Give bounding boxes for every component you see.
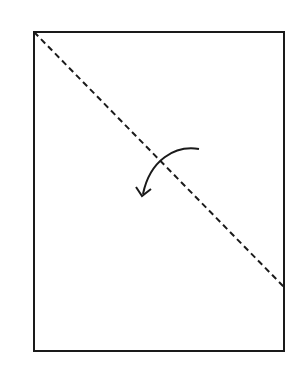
paper-sheet [34,32,284,351]
fold-diagram [0,0,307,383]
